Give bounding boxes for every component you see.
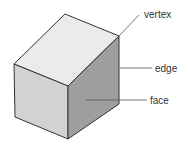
prism-diagram: vertex edge face: [0, 0, 188, 149]
vertex-leader: [119, 15, 139, 36]
vertex-label: vertex: [144, 9, 171, 20]
face-label: face: [150, 95, 169, 106]
edge-label: edge: [155, 63, 178, 74]
